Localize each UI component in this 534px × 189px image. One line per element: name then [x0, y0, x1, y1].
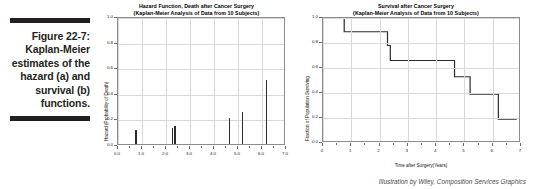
x-tick-mark: [213, 146, 214, 149]
y-tick-label: 0.8: [93, 40, 113, 45]
y-tick-label: 0.6: [298, 64, 318, 69]
x-tick-mark: [261, 146, 262, 149]
y-tick-label: 0.8: [298, 39, 318, 44]
y-tick-label: 1.0: [93, 14, 113, 19]
hazard-spike: [135, 130, 136, 144]
x-minor-tick-mark: [478, 143, 479, 145]
x-tick-label: 1.0: [131, 151, 151, 156]
survival-step-curve: [323, 18, 520, 142]
x-tick-mark: [350, 143, 351, 146]
hazard-function-chart: Hazard Function, Death after Cancer Surg…: [96, 3, 291, 178]
survival-chart-title-main: Survival after Cancer Surgery: [378, 3, 454, 9]
x-minor-tick-mark: [225, 146, 226, 148]
x-tick-mark: [322, 143, 323, 146]
hazard-spike: [266, 80, 267, 144]
gridline-vertical: [493, 18, 494, 141]
x-minor-tick-mark: [506, 143, 507, 145]
x-tick-mark: [435, 143, 436, 146]
x-minor-tick-mark: [393, 143, 394, 145]
hazard-chart-subtitle: (Kaplan-Meier Analysis of Data from 10 S…: [104, 10, 289, 17]
gridline-vertical: [118, 18, 119, 144]
x-tick-label: 2: [369, 148, 389, 153]
x-tick-label: 2.0: [155, 151, 175, 156]
hazard-plot-area: [117, 17, 285, 145]
x-tick-label: 5.0: [227, 151, 247, 156]
y-tick-label: 0.4: [298, 89, 318, 94]
hazard-spike: [172, 128, 173, 144]
illustration-credit: Illustration by Wiley, Composition Servi…: [379, 178, 526, 185]
y-tick-label: 1.0: [298, 14, 318, 19]
gridline-vertical: [166, 18, 167, 144]
x-minor-tick-mark: [129, 146, 130, 148]
x-tick-label: 4.0: [203, 151, 223, 156]
gridline-horizontal: [323, 93, 519, 94]
hazard-chart-title-main: Hazard Function, Death after Cancer Surg…: [139, 3, 254, 9]
survival-plot-wrap: Fraction of Population Surviving Time af…: [296, 17, 528, 183]
y-tick-mark: [114, 119, 117, 120]
x-tick-mark: [520, 143, 521, 146]
x-tick-mark: [237, 146, 238, 149]
y-tick-label: 0.0: [93, 142, 113, 147]
hazard-spike: [174, 126, 175, 144]
x-tick-mark: [379, 143, 380, 146]
x-minor-tick-mark: [449, 143, 450, 145]
gridline-horizontal: [323, 118, 519, 119]
x-tick-mark: [141, 146, 142, 149]
x-tick-label: 0.0: [107, 151, 127, 156]
x-tick-mark: [165, 146, 166, 149]
figure-caption-text: Figure 22-7: Kaplan-Meier estimates of t…: [10, 30, 90, 110]
figure-caption-body: Kaplan-Meier estimates of the hazard (a)…: [10, 43, 90, 110]
survival-chart: Survival after Cancer Surgery (Kaplan-Me…: [296, 3, 528, 183]
x-tick-mark: [285, 146, 286, 149]
x-tick-label: 3: [397, 148, 417, 153]
y-tick-label: 0.2: [93, 116, 113, 121]
gridline-vertical: [380, 18, 381, 141]
x-tick-label: 5: [453, 148, 473, 153]
gridline-horizontal: [323, 43, 519, 44]
gridline-vertical: [464, 18, 465, 141]
caption-rule-bottom: [10, 116, 90, 121]
y-tick-label: 0.6: [93, 65, 113, 70]
gridline-vertical: [436, 18, 437, 141]
y-tick-mark: [114, 17, 117, 18]
x-minor-tick-mark: [177, 146, 178, 148]
x-tick-label: 6: [482, 148, 502, 153]
x-tick-label: 1: [340, 148, 360, 153]
survival-plot-area: [322, 17, 520, 142]
x-minor-tick-mark: [421, 143, 422, 145]
hazard-spike: [229, 118, 230, 144]
x-minor-tick-mark: [273, 146, 274, 148]
gridline-horizontal: [323, 68, 519, 69]
x-tick-label: 7: [510, 148, 530, 153]
x-minor-tick-mark: [153, 146, 154, 148]
x-minor-tick-mark: [249, 146, 250, 148]
gridline-vertical: [190, 18, 191, 144]
survival-chart-title: Survival after Cancer Surgery (Kaplan-Me…: [306, 3, 526, 17]
survival-x-axis-title: Time after Surgery(Years): [322, 163, 520, 168]
hazard-plot-wrap: Hazard (Probability of Death) 0.00.20.40…: [96, 17, 291, 177]
hazard-spike: [242, 112, 243, 144]
gridline-horizontal: [323, 18, 519, 19]
y-tick-mark: [319, 92, 322, 93]
gridline-vertical: [408, 18, 409, 141]
y-tick-label: 0.4: [93, 91, 113, 96]
x-tick-label: 3.0: [179, 151, 199, 156]
gridline-vertical: [142, 18, 143, 144]
x-tick-mark: [407, 143, 408, 146]
y-tick-label: 0.2: [298, 114, 318, 119]
y-tick-label: 0.0: [298, 139, 318, 144]
gridline-vertical: [214, 18, 215, 144]
survival-y-axis-title: Fraction of Population Surviving: [305, 76, 310, 141]
x-tick-label: 6.0: [251, 151, 271, 156]
caption-rule-top: [10, 18, 90, 23]
x-tick-label: 7.0: [275, 151, 295, 156]
x-minor-tick-mark: [364, 143, 365, 145]
x-minor-tick-mark: [201, 146, 202, 148]
x-tick-label: 4: [425, 148, 445, 153]
x-tick-label: 0: [312, 148, 332, 153]
gridline-vertical: [262, 18, 263, 144]
y-tick-mark: [114, 43, 117, 44]
y-tick-mark: [114, 94, 117, 95]
gridline-vertical: [351, 18, 352, 141]
gridline-vertical: [323, 18, 324, 141]
